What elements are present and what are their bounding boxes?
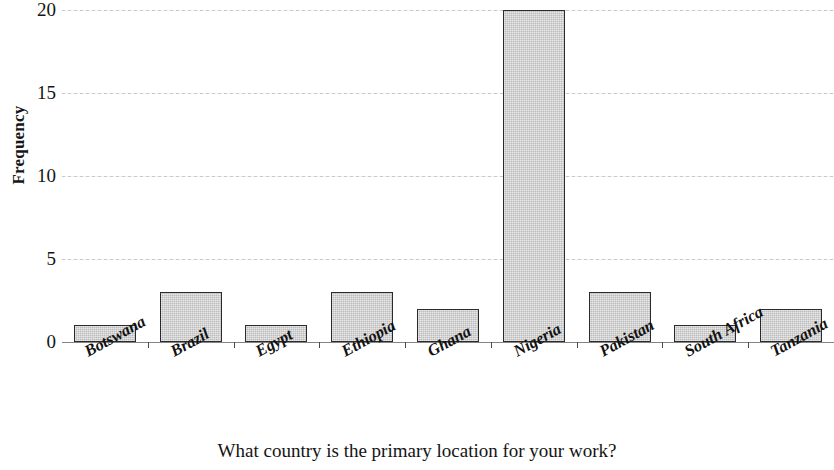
y-axis-tick-label: 5 (10, 249, 56, 268)
gridline (62, 93, 834, 94)
y-axis-tick-label: 0 (10, 332, 56, 351)
y-axis-tick-label: 10 (10, 166, 56, 185)
x-axis-category-labels: BotswanaBrazilEgyptEthiopiaGhanaNigeriaP… (62, 344, 834, 436)
y-axis-tick-label: 20 (10, 0, 56, 19)
gridline (62, 259, 834, 260)
y-axis-tick-label: 15 (10, 83, 56, 102)
gridline (62, 10, 834, 11)
gridline (62, 176, 834, 177)
y-axis-tick-labels: 05101520 (0, 10, 56, 342)
bar (503, 10, 565, 342)
plot-area (62, 10, 834, 342)
x-axis-title: What country is the primary location for… (0, 440, 834, 462)
bar-chart-figure: Frequency 05101520 BotswanaBrazilEgyptEt… (0, 0, 834, 470)
